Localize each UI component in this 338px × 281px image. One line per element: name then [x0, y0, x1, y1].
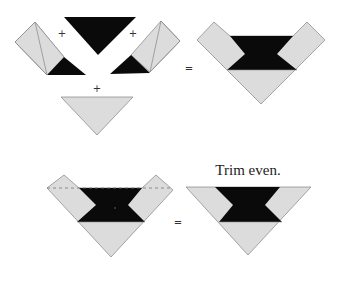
quilt-block-diagram: + + + = = Trim even.	[0, 0, 338, 281]
equals-sign: =	[174, 217, 182, 228]
left-strip-piece	[15, 22, 86, 75]
diagram-canvas: + + + = = Trim even.	[0, 0, 338, 281]
bottom-light-triangle-piece	[61, 97, 133, 135]
untrimmed-block	[47, 175, 173, 257]
plus-sign: +	[93, 83, 101, 94]
plus-sign: +	[58, 28, 66, 39]
trimmed-triangle-block	[186, 187, 311, 255]
assembled-v-block	[197, 22, 325, 104]
trim-even-caption: Trim even.	[215, 162, 280, 178]
equals-sign: =	[185, 63, 193, 74]
top-dark-triangle-piece	[64, 17, 136, 55]
plus-sign: +	[129, 28, 137, 39]
